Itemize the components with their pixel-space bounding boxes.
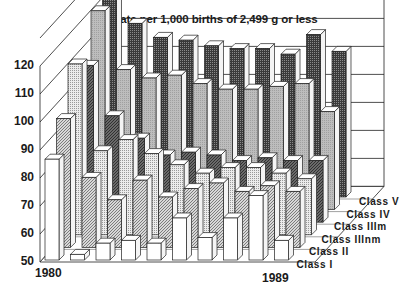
- bar: [173, 213, 192, 260]
- class-label: Class V: [359, 196, 399, 207]
- y-tick-label: 120: [4, 58, 34, 72]
- bars-group: [45, 0, 351, 260]
- bar: [224, 213, 243, 260]
- chart-plot-area: [0, 0, 413, 298]
- y-tick-label: 50: [4, 254, 34, 268]
- y-tick-label: 80: [4, 170, 34, 184]
- y-tick-label: 100: [4, 114, 34, 128]
- x-label-end: 1989: [262, 271, 289, 285]
- class-label: Class IIIm: [334, 221, 387, 232]
- bar: [45, 154, 64, 260]
- bar: [82, 172, 101, 247]
- class-label: Class II: [309, 246, 349, 257]
- class-label: Class IV: [347, 209, 391, 220]
- y-tick-label: 60: [4, 226, 34, 240]
- y-tick-label: 70: [4, 198, 34, 212]
- bar: [122, 235, 141, 260]
- y-tick-label: 110: [4, 86, 34, 100]
- bar: [275, 235, 294, 260]
- bar: [96, 238, 115, 260]
- x-label-start: 1980: [35, 266, 62, 280]
- class-label: Class IIInm: [322, 234, 381, 245]
- bar: [147, 238, 166, 260]
- bar: [198, 233, 217, 260]
- bar: [249, 191, 268, 260]
- y-tick-label: 90: [4, 142, 34, 156]
- class-label: Class I: [297, 259, 333, 270]
